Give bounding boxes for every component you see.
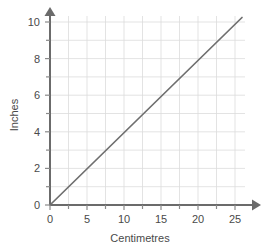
x-tick-label: 10 <box>118 213 130 225</box>
x-axis-title: Centimetres <box>110 232 170 244</box>
x-tick-labels: 0 5 10 15 20 25 <box>47 213 241 225</box>
y-tick-label: 6 <box>34 89 40 101</box>
y-tick-label: 8 <box>34 53 40 65</box>
y-tick-labels: 0 2 4 6 8 10 <box>28 16 40 211</box>
x-tick-label: 25 <box>229 213 241 225</box>
x-axis-arrow-icon <box>252 200 261 211</box>
y-axis-arrow-icon <box>45 7 56 16</box>
x-tick-label: 0 <box>47 213 53 225</box>
conversion-graph-figure: 0 5 10 15 20 25 0 2 4 6 8 10 Centimetres… <box>0 0 265 248</box>
chart-svg: 0 5 10 15 20 25 0 2 4 6 8 10 Centimetres… <box>0 0 265 248</box>
conversion-line <box>50 18 242 206</box>
axes <box>45 7 262 211</box>
x-tick-label: 5 <box>84 213 90 225</box>
x-tick-label: 15 <box>155 213 167 225</box>
y-tick-label: 4 <box>34 126 40 138</box>
data-series-cm-to-inches <box>50 18 242 206</box>
y-tick-label: 0 <box>34 199 40 211</box>
x-tick-label: 20 <box>192 213 204 225</box>
cropped-header-text <box>4 0 234 4</box>
y-axis-title: Inches <box>8 98 20 131</box>
y-tick-label: 10 <box>28 16 40 28</box>
y-tick-label: 2 <box>34 162 40 174</box>
